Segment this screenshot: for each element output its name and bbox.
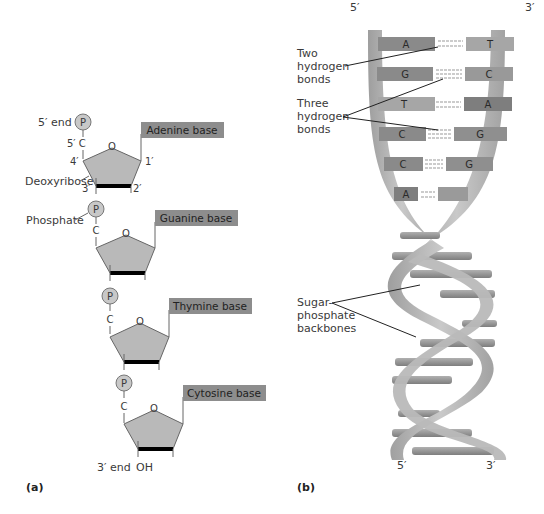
callout-line: bonds [297, 123, 331, 136]
carbon-symbol: C [107, 314, 114, 325]
cytosine-base-label: Cytosine base [187, 387, 261, 399]
phosphate-symbol: P [80, 117, 86, 128]
hydrogen-bonds-2 [438, 41, 463, 46]
double-helix: A T G C T A C G C G A [368, 30, 514, 460]
oxygen-symbol: O [108, 141, 116, 152]
oxygen-symbol: O [122, 228, 130, 239]
carbon-symbol: C [93, 225, 100, 236]
nucleotide-chain: 5′ end P 5′ C O 4′ 1′ 3′ 2′ Deoxyribose … [25, 114, 266, 474]
three-prime-top-label: 3′ [525, 1, 535, 14]
callout-line: hydrogen [297, 60, 349, 73]
panel-a-label: (a) [26, 481, 43, 494]
base-letter: A [403, 189, 410, 200]
callout-line: Two [296, 47, 318, 60]
callout-line: hydrogen [297, 110, 349, 123]
base-letter: G [465, 159, 473, 170]
dna-structure-figure: 5′ end P 5′ C O 4′ 1′ 3′ 2′ Deoxyribose … [0, 0, 544, 514]
callout-line: Sugar- [297, 296, 332, 309]
hydrogen-bonds-3 [428, 130, 451, 138]
deoxyribose-ring-2 [96, 235, 155, 273]
phosphate-symbol: P [93, 204, 99, 215]
callout-line: backbones [297, 322, 357, 335]
base-letter: T [486, 39, 494, 50]
c4-label: 4′ [70, 156, 79, 167]
phosphate-label: Phosphate [26, 214, 84, 227]
callout-line: Three [296, 97, 329, 110]
deoxyribose-label: Deoxyribose [25, 175, 94, 188]
base-letter: T [400, 99, 408, 110]
adenine-base-label: Adenine base [146, 124, 217, 136]
base-letter: C [400, 159, 407, 170]
guanine-base-label: Guanine base [160, 212, 232, 224]
backbone-right-top [408, 30, 505, 262]
deoxyribose-ring-3 [110, 323, 169, 362]
panel-b-label: (b) [297, 481, 315, 494]
five-prime-bottom-label: 5′ [397, 459, 407, 472]
callout-line: phosphate [297, 309, 355, 322]
base-letter: C [486, 69, 493, 80]
phosphate-symbol: P [121, 378, 127, 389]
hydrogen-bonds-2 [421, 192, 435, 197]
phosphate-symbol: P [107, 291, 113, 302]
hydrogen-bonds-3 [425, 160, 443, 168]
five-prime-top-label: 5′ [350, 1, 360, 14]
base-letter: A [403, 39, 410, 50]
five-prime-end-label: 5′ end [38, 116, 72, 129]
c1-label: 1′ [145, 156, 154, 167]
hydrogen-bonds-3 [436, 70, 462, 78]
base-letter: G [401, 69, 409, 80]
base-letter: C [399, 129, 406, 140]
three-prime-end-label: 3′ end [97, 461, 131, 474]
hydroxyl-label: OH [136, 461, 153, 474]
five-prime-carbon-label: 5′ C [67, 138, 86, 149]
oxygen-symbol: O [136, 316, 144, 327]
base-letter: A [485, 99, 492, 110]
c2-label: 2′ [133, 183, 142, 194]
base-partner [438, 187, 468, 201]
callout-line: bonds [297, 73, 331, 86]
three-prime-bottom-label: 3′ [486, 459, 496, 472]
thymine-base-label: Thymine base [172, 300, 247, 312]
hydrogen-bonds-2 [436, 102, 461, 107]
deoxyribose-ring-4 [124, 410, 183, 449]
oxygen-symbol: O [150, 403, 158, 414]
carbon-symbol: C [121, 401, 128, 412]
base-letter: G [476, 129, 484, 140]
